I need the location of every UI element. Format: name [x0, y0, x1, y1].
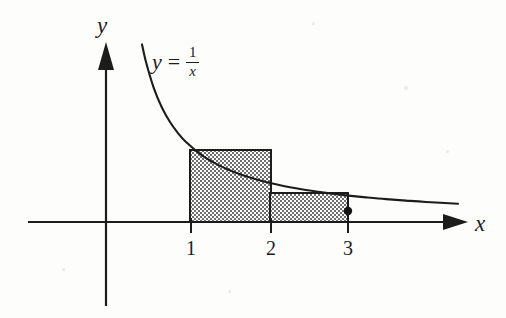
- y-axis: [98, 42, 114, 306]
- equation-lhs: y: [152, 51, 162, 73]
- scan-speck: [228, 290, 231, 293]
- scan-speck: [62, 268, 65, 271]
- scan-speck: [446, 150, 449, 153]
- fraction-numerator: 1: [187, 45, 199, 62]
- rectangle-1: [190, 150, 271, 222]
- equation-equals-sign: =: [167, 51, 181, 73]
- x-tick-label-3: 3: [336, 238, 360, 258]
- point-on-curve: [344, 207, 352, 215]
- equation-fraction: 1 x: [186, 45, 199, 80]
- scan-speck: [312, 22, 315, 25]
- x-axis-label: x: [475, 212, 485, 235]
- fraction-denominator: x: [187, 63, 198, 80]
- graph-svg: [0, 0, 506, 318]
- riemann-rectangles: [190, 150, 348, 222]
- y-axis-label: y: [97, 14, 107, 37]
- curve-equation-label: y = 1 x: [152, 44, 199, 79]
- figure-canvas: y x y = 1 x 1 2 3: [0, 0, 506, 318]
- scan-speck: [404, 86, 408, 90]
- x-tick-label-2: 2: [259, 238, 283, 258]
- rectangle-2: [270, 193, 348, 222]
- x-tick-label-1: 1: [179, 238, 203, 258]
